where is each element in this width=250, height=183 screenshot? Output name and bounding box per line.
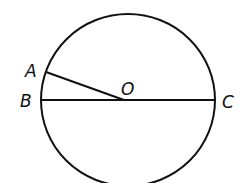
- label-o: O: [121, 79, 134, 99]
- label-c: C: [222, 92, 234, 112]
- label-a: A: [24, 61, 37, 81]
- label-b: B: [20, 91, 32, 111]
- circle-diagram: A B O C: [0, 0, 250, 183]
- radius-oa: [46, 72, 124, 100]
